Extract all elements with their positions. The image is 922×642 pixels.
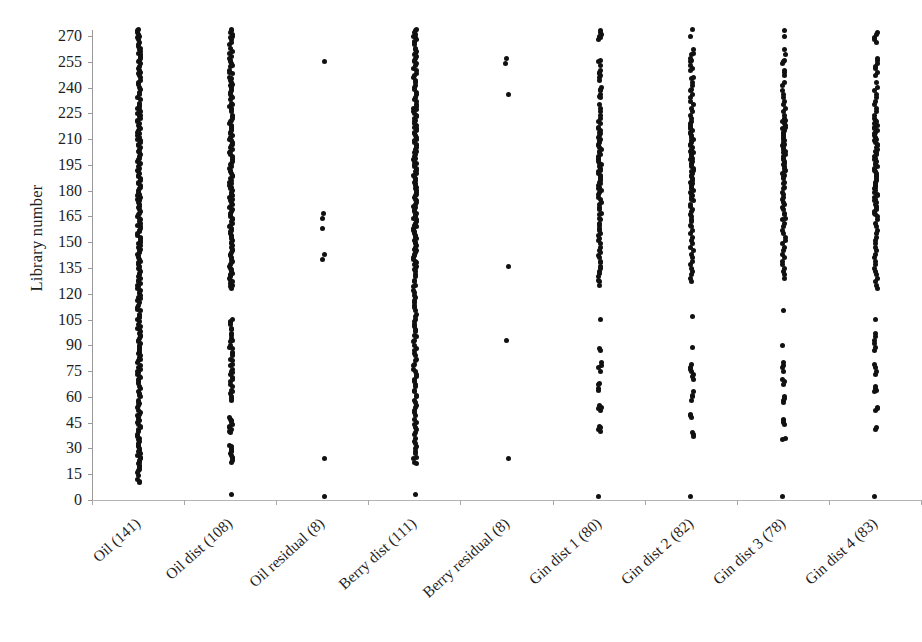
data-point	[873, 408, 878, 413]
data-series-group	[93, 30, 921, 500]
y-tick-label: 210	[30, 131, 82, 147]
y-tick-label: 30	[30, 440, 82, 456]
y-tick-label: 150	[30, 234, 82, 250]
x-category-label: Gin dist 4 (83)	[720, 514, 881, 642]
y-tick-label: 180	[30, 183, 82, 199]
x-tick-mark	[184, 500, 185, 505]
y-tick-label: 90	[30, 337, 82, 353]
x-tick-mark	[829, 500, 830, 505]
data-point	[872, 389, 877, 394]
data-point	[874, 40, 879, 45]
y-tick-label: 45	[30, 415, 82, 431]
data-point	[873, 427, 878, 432]
y-tick-label: 255	[30, 54, 82, 70]
x-tick-mark	[276, 500, 277, 505]
x-tick-mark	[737, 500, 738, 505]
y-tick-label: 195	[30, 157, 82, 173]
data-point	[873, 372, 878, 377]
y-tick-label: 15	[30, 466, 82, 482]
y-tick-label: 120	[30, 286, 82, 302]
data-point	[872, 348, 877, 353]
y-tick-label: 165	[30, 208, 82, 224]
y-tick-label: 135	[30, 260, 82, 276]
x-tick-mark	[460, 500, 461, 505]
data-point	[872, 494, 877, 499]
x-tick-mark	[553, 500, 554, 505]
y-tick-label: 60	[30, 389, 82, 405]
data-point	[873, 317, 878, 322]
y-tick-label: 105	[30, 312, 82, 328]
x-tick-mark	[368, 500, 369, 505]
plot-area	[93, 30, 921, 500]
y-tick-label: 270	[30, 28, 82, 44]
data-point	[875, 286, 880, 291]
y-tick-label: 0	[30, 492, 82, 508]
y-tick-label: 225	[30, 105, 82, 121]
data-point	[873, 73, 878, 78]
y-tick-label: 75	[30, 363, 82, 379]
x-axis-line	[92, 500, 921, 501]
x-tick-mark	[92, 500, 93, 505]
y-axis-title-container: Library number	[0, 0, 34, 510]
y-tick-label: 240	[30, 80, 82, 96]
x-tick-mark	[645, 500, 646, 505]
